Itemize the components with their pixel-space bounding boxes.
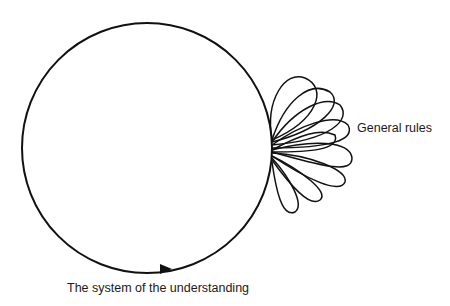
- understanding-circle: [22, 23, 272, 273]
- diagram-canvas: [0, 0, 450, 306]
- general-rules-label: General rules: [357, 121, 432, 135]
- system-label: The system of the understanding: [67, 281, 249, 295]
- general-rules-petals: [271, 77, 352, 213]
